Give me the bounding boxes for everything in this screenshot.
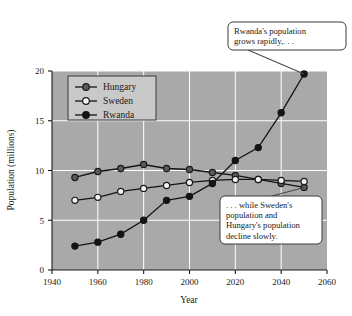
x-tick-label: 2000: [181, 277, 200, 287]
callout-line: . . . while Sweden's: [226, 200, 293, 210]
data-point-marker: [163, 197, 169, 203]
data-point-marker: [255, 145, 261, 151]
callout-line: Hungary's population: [226, 220, 301, 230]
y-axis-title: Population (millions): [6, 129, 17, 210]
data-point-marker: [186, 179, 192, 185]
legend[interactable]: HungarySwedenRwanda: [68, 76, 156, 120]
data-point-marker: [209, 169, 215, 175]
data-point-marker: [72, 243, 78, 249]
data-point-marker: [141, 185, 147, 191]
data-point-marker: [278, 177, 284, 183]
data-point-marker: [232, 176, 238, 182]
x-tick-label: 2040: [272, 277, 291, 287]
y-tick-label: 0: [40, 265, 45, 275]
population-line-chart: 05101520 1940196019802000202020402060 Ye…: [0, 0, 352, 316]
x-axis-title: Year: [180, 295, 198, 305]
decline-callout: . . . while Sweden'spopulation andHungar…: [220, 187, 322, 244]
data-point-marker: [209, 180, 215, 186]
x-tick-label: 2060: [318, 277, 337, 287]
data-point-marker: [186, 166, 192, 172]
data-point-marker: [83, 84, 90, 91]
data-point-marker: [83, 98, 90, 105]
callout-line: population and: [226, 210, 278, 220]
legend-label-hungary: Hungary: [103, 82, 136, 92]
data-point-marker: [301, 178, 307, 184]
data-point-marker: [95, 239, 101, 245]
data-point-marker: [255, 176, 261, 182]
data-point-marker: [83, 112, 90, 119]
legend-label-sweden: Sweden: [103, 96, 133, 106]
legend-label-rwanda: Rwanda: [103, 110, 135, 120]
y-tick-label: 15: [35, 116, 45, 126]
data-point-marker: [118, 188, 124, 194]
y-tick-label: 5: [40, 216, 45, 226]
x-tick-label: 1960: [89, 277, 108, 287]
data-point-marker: [141, 161, 147, 167]
data-point-marker: [72, 174, 78, 180]
data-point-marker: [278, 110, 284, 116]
data-point-marker: [163, 182, 169, 188]
data-point-marker: [118, 231, 124, 237]
data-point-marker: [163, 165, 169, 171]
callout-line: decline slowly.: [226, 231, 277, 241]
data-point-marker: [232, 157, 238, 163]
x-tick-label: 2020: [226, 277, 245, 287]
x-tick-label: 1940: [43, 277, 62, 287]
data-point-marker: [95, 168, 101, 174]
y-tick-label: 10: [35, 166, 45, 176]
data-point-marker: [186, 193, 192, 199]
data-point-marker: [141, 217, 147, 223]
x-tick-label: 1980: [135, 277, 154, 287]
data-point-marker: [72, 197, 78, 203]
data-point-marker: [118, 165, 124, 171]
callout-line: Rwanda's population: [234, 26, 307, 36]
callout-line: grows rapidly,. . .: [234, 36, 294, 46]
data-point-marker: [301, 184, 307, 190]
data-point-marker: [95, 194, 101, 200]
y-tick-label: 20: [35, 66, 45, 76]
